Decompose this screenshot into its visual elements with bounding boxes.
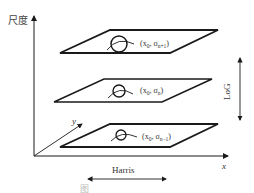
harris-label: Harris [112, 165, 135, 175]
layer-middle [54, 79, 212, 102]
x-axis-label: x [221, 161, 226, 171]
layer-bottom [60, 124, 218, 147]
layer-bottom-label: (x0, σn−1) [142, 132, 171, 142]
scale-axis-label: 尺度 [8, 14, 28, 26]
feature-curve [111, 134, 137, 141]
harris-laplace-diagram: 尺度 x y (x0, σn+1) (x0, σn) (x0, σn−1) Lo… [0, 0, 254, 193]
y-axis-label: y [71, 116, 76, 126]
figure-caption: 图 [80, 184, 89, 193]
layer-top-label: (x0, σn+1) [140, 39, 169, 49]
log-label: LoG [222, 83, 232, 100]
layer-middle-label: (x0, σn) [140, 86, 163, 96]
layer-top [60, 30, 218, 53]
